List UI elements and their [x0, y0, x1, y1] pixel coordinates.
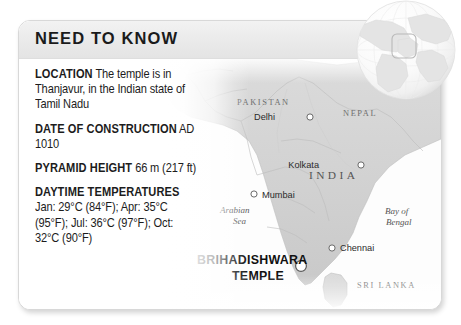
fact-daytime-temperatures: DAYTIME TEMPERATURES Jan: 29°C (84°F); A… [35, 185, 198, 246]
city-dot-mumbai [251, 191, 257, 197]
globe-svg [352, 0, 460, 104]
fact-pyramid-height: PYRAMID HEIGHT 66 m (217 ft) [35, 161, 198, 176]
map-label-sea-arabian-line2: Sea [233, 216, 246, 226]
map-label-city-mumbai: Mumbai [262, 190, 295, 200]
globe-inset [352, 0, 460, 104]
city-dot-kolkata [358, 162, 364, 168]
fact-list: LOCATION The temple is in Thanjavur, in … [35, 67, 213, 246]
map-label-sea-arabian-line1: Arabian [219, 205, 250, 215]
map-label-temple-line2: TEMPLE [232, 269, 284, 283]
map-label-country-india: INDIA [309, 169, 358, 181]
fact-location: LOCATION The temple is in Thanjavur, in … [35, 67, 198, 113]
map-label-country-pakistan: PAKISTAN [237, 98, 290, 107]
map-label-country-nepal: NEPAL [343, 109, 377, 118]
map-label-sea-bengal-line2: Bengal [386, 217, 412, 227]
page-title: NEED TO KNOW [35, 29, 178, 48]
fact-temps-value: Jan: 29°C (84°F); Apr: 35°C (95°F); Jul:… [35, 200, 173, 244]
city-dot-delhi [307, 114, 313, 120]
map-label-country-sri-lanka: SRI LANKA [357, 281, 416, 290]
fact-height-value: 66 m (217 ft) [132, 161, 196, 175]
map-label-city-delhi: Delhi [254, 112, 275, 122]
fact-temps-label: DAYTIME TEMPERATURES [35, 185, 179, 199]
fact-date-label: DATE OF CONSTRUCTION [35, 122, 177, 136]
map-label-temple-line1: BRIHADISHWARA [197, 253, 308, 267]
fact-date-of-construction: DATE OF CONSTRUCTION AD 1010 [35, 122, 198, 152]
map-label-sea-bengal-line1: Bay of [385, 206, 410, 216]
map-label-city-chennai: Chennai [340, 243, 374, 253]
screenshot-stage: PAKISTAN NEPAL SRI LANKA INDIA Delhi Kol [0, 0, 461, 325]
fact-height-label: PYRAMID HEIGHT [35, 161, 132, 175]
city-dot-chennai [329, 245, 335, 251]
fact-location-label: LOCATION [35, 67, 93, 81]
map-label-city-kolkata: Kolkata [288, 160, 320, 170]
